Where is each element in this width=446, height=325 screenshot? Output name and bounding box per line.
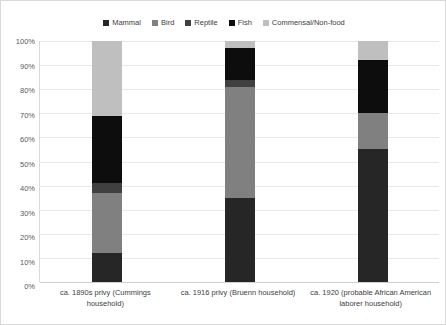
legend-swatch-icon — [263, 20, 269, 26]
chart-container: MammalBirdReptileFishCommensal/Non-food … — [0, 0, 446, 325]
legend-label: Bird — [161, 18, 174, 27]
legend-swatch-icon — [103, 20, 109, 26]
bar-segment[interactable] — [358, 149, 388, 282]
legend-label: Reptile — [194, 18, 217, 27]
legend-label: Fish — [238, 18, 252, 27]
x-axis-category-label: ca. 1920 (probable African American labo… — [304, 287, 437, 309]
bar-segment[interactable] — [92, 116, 122, 183]
bar-segment[interactable] — [225, 80, 255, 87]
y-axis-tick-label: 100% — [16, 37, 35, 46]
x-axis-category-label: ca. 1916 privy (Bruenn household) — [172, 287, 305, 309]
y-axis-tick-label: 20% — [20, 233, 35, 242]
y-axis-tick-label: 90% — [20, 61, 35, 70]
y-axis-tick-label: 50% — [20, 159, 35, 168]
y-axis-tick-label: 70% — [20, 110, 35, 119]
legend-entry[interactable]: Bird — [152, 18, 174, 27]
bar-segment[interactable] — [92, 41, 122, 116]
plot-area-wrapper: 0%10%20%30%40%50%60%70%80%90%100% — [1, 41, 446, 286]
legend-label: Commensal/Non-food — [272, 18, 345, 27]
legend-entry[interactable]: Commensal/Non-food — [263, 18, 345, 27]
bar-segment[interactable] — [92, 193, 122, 253]
legend-swatch-icon — [229, 20, 235, 26]
legend-swatch-icon — [152, 20, 158, 26]
y-axis-tick-label: 80% — [20, 86, 35, 95]
bar-segment[interactable] — [358, 60, 388, 113]
bar-segment[interactable] — [92, 253, 122, 282]
bar-segment[interactable] — [358, 41, 388, 60]
bar-group — [40, 41, 173, 282]
bar-segment[interactable] — [225, 87, 255, 198]
y-axis-tick-label: 30% — [20, 208, 35, 217]
bar-groups — [40, 41, 439, 282]
legend-swatch-icon — [185, 20, 191, 26]
legend-entry[interactable]: Reptile — [185, 18, 217, 27]
x-axis-category-label: ca. 1890s privy (Cummings household) — [39, 287, 172, 309]
legend-entry[interactable]: Fish — [229, 18, 252, 27]
y-axis: 0%10%20%30%40%50%60%70%80%90%100% — [1, 41, 39, 286]
bar-segment[interactable] — [225, 198, 255, 282]
y-axis-tick-label: 60% — [20, 135, 35, 144]
y-axis-tick-label: 40% — [20, 184, 35, 193]
y-axis-tick-label: 0% — [24, 282, 35, 291]
bar-segment[interactable] — [225, 41, 255, 48]
gridline — [40, 282, 439, 283]
legend-label: Mammal — [112, 18, 141, 27]
legend-entry[interactable]: Mammal — [103, 18, 141, 27]
bar-segment[interactable] — [358, 113, 388, 149]
bar-segment[interactable] — [92, 183, 122, 193]
y-axis-tick-label: 10% — [20, 257, 35, 266]
x-axis: ca. 1890s privy (Cummings household)ca. … — [39, 287, 437, 309]
plot-area — [39, 41, 439, 282]
bar-group — [173, 41, 306, 282]
bar-group — [306, 41, 439, 282]
bar-segment[interactable] — [225, 48, 255, 79]
chart-legend: MammalBirdReptileFishCommensal/Non-food — [1, 18, 446, 27]
